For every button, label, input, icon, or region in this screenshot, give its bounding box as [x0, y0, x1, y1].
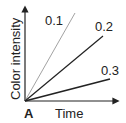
series-label-0.2: 0.2 [95, 19, 113, 34]
panel-label: A [24, 106, 34, 121]
series-label-0.1: 0.1 [45, 13, 63, 28]
x-axis-title: Time [55, 106, 83, 121]
chart: 0.1 0.2 0.3 Color intensity Time A [0, 0, 126, 123]
y-axis-title: Color intensity [8, 17, 23, 100]
series-label-0.3: 0.3 [101, 63, 119, 78]
